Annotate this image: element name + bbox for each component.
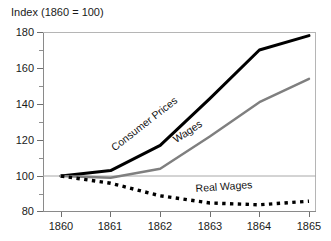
- chart-container: Index (1860 = 100): [0, 0, 331, 241]
- x-tick-label-1864: 1864: [239, 221, 279, 232]
- y-tick-label-160: 160: [8, 63, 34, 74]
- y-tick-label-180: 180: [8, 27, 34, 38]
- x-tick-label-1863: 1863: [190, 221, 230, 232]
- y-axis-minor-ticks: [39, 51, 43, 195]
- plot-frame: [43, 32, 316, 212]
- y-tick-label-120: 120: [8, 135, 34, 146]
- series-real-wages: [61, 176, 309, 205]
- y-tick-label-100: 100: [8, 171, 34, 182]
- y-tick-label-140: 140: [8, 99, 34, 110]
- series-consumer-prices: [61, 36, 309, 176]
- y-tick-label-80: 80: [8, 206, 34, 217]
- x-tick-label-1860: 1860: [41, 221, 81, 232]
- x-tick-label-1862: 1862: [140, 221, 180, 232]
- x-axis-ticks: [62, 212, 310, 217]
- x-tick-label-1865: 1865: [289, 221, 329, 232]
- x-tick-label-1861: 1861: [90, 221, 130, 232]
- plot-svg: [0, 0, 331, 241]
